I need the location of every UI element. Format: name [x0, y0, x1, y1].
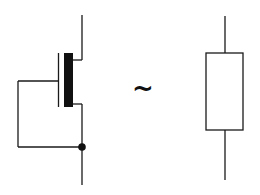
- equivalence-symbol: ~: [132, 73, 154, 103]
- circuit-diagram: ~: [0, 0, 260, 195]
- junction-dot: [78, 143, 86, 151]
- resistor-symbol: [206, 16, 243, 180]
- resistor-body: [206, 53, 243, 130]
- channel-bar: [64, 53, 73, 107]
- mosfet-symbol: [18, 15, 86, 185]
